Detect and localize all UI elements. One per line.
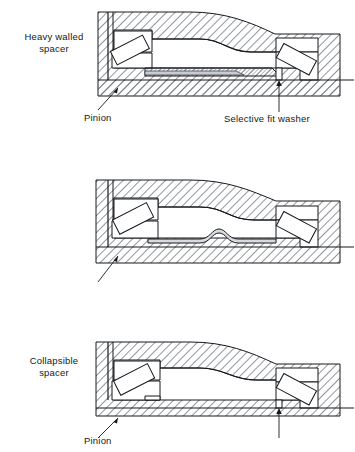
diagram-pinion-shoulder: Pinion shoulder Pinion Selective fit was… (0, 310, 355, 452)
heavy-walled-spacer-drawing (0, 0, 355, 150)
diagram-collapsible-spacer: Collapsible spacer Pinion (0, 150, 355, 310)
diagram-label-heavy-walled-spacer: Heavy walled spacer (8, 31, 100, 55)
callout-selective-fit-washer: Selective fit washer (224, 113, 310, 125)
selective-fit-washer-leader (276, 408, 282, 438)
pinion-leader (98, 418, 118, 438)
heavy-walled-spacer-step (145, 71, 244, 75)
figure-page: Heavy walled spacer Pinion Selective fit… (0, 0, 355, 452)
pinion-shoulder (145, 396, 160, 400)
pinion-shoulder-drawing (0, 310, 355, 452)
housing-lower (98, 80, 340, 96)
selective-fit-washer (276, 400, 282, 408)
callout-pinion: Pinion (84, 112, 112, 124)
selective-fit-washer (276, 68, 282, 80)
collapsible-spacer-drawing (0, 150, 355, 310)
diagram-heavy-walled-spacer: Heavy walled spacer Pinion Selective fit… (0, 0, 355, 150)
